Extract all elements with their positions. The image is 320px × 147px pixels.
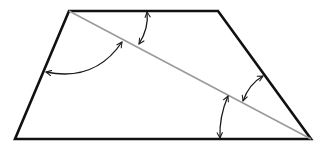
trapezoid-outline: [15, 11, 311, 139]
bottom-angle-arrow: [220, 96, 228, 138]
diagonal-line: [69, 11, 311, 139]
trapezoid-diagram: [0, 0, 320, 147]
top-angle-arrow: [139, 12, 147, 44]
left-angle-arrow: [46, 42, 122, 74]
right-angle-arrow: [243, 76, 263, 101]
